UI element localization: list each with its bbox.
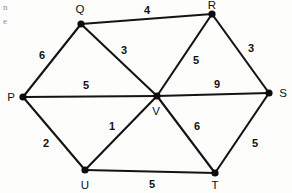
node-label-u: U <box>81 179 89 191</box>
graph-edge <box>157 96 215 173</box>
edge-weight-pv: 5 <box>83 79 89 91</box>
edge-weight-ts: 5 <box>252 137 258 149</box>
edge-weight-uv: 1 <box>109 120 115 132</box>
margin-artifact-m2: e <box>3 16 7 26</box>
graph-edge <box>212 14 269 93</box>
graph-node-u <box>81 166 88 173</box>
graph-edge <box>85 96 157 170</box>
graph-edge <box>215 93 269 173</box>
graph-canvas: 643535921655 PQRSTUV ne <box>0 0 292 193</box>
graph-node-s <box>265 89 272 96</box>
graph-edge <box>157 14 212 96</box>
edge-weight-pq: 6 <box>39 49 45 61</box>
margin-artifact-m1: n <box>3 2 8 12</box>
edge-weight-qr: 4 <box>144 4 151 16</box>
edge-weight-vt: 6 <box>194 120 200 132</box>
node-label-p: P <box>7 91 15 103</box>
node-label-q: Q <box>76 3 85 15</box>
graph-node-v <box>153 92 160 99</box>
edge-weight-pu: 2 <box>43 137 49 149</box>
graph-node-p <box>19 93 26 100</box>
node-label-r: R <box>208 0 216 11</box>
edge-weight-vs: 9 <box>214 78 220 90</box>
node-label-s: S <box>279 87 287 99</box>
graph-edge <box>81 24 157 96</box>
edge-weight-rv: 5 <box>193 54 199 66</box>
graph-edge <box>157 93 269 96</box>
graph-diagram: 643535921655 PQRSTUV ne <box>0 0 292 193</box>
edge-weight-ut: 5 <box>149 178 155 190</box>
edge-weight-rs: 3 <box>248 42 254 54</box>
graph-edge <box>23 24 81 97</box>
node-label-t: T <box>211 179 218 191</box>
margin-artifact-layer: ne <box>3 2 8 26</box>
edge-layer <box>23 14 269 173</box>
graph-node-r <box>208 10 215 17</box>
graph-edge <box>23 96 157 97</box>
edge-weight-qv: 3 <box>121 44 127 56</box>
graph-edge <box>23 97 85 170</box>
graph-edge <box>85 170 215 173</box>
graph-node-t <box>211 169 218 176</box>
node-label-v: V <box>152 105 160 117</box>
graph-node-q <box>77 20 84 27</box>
